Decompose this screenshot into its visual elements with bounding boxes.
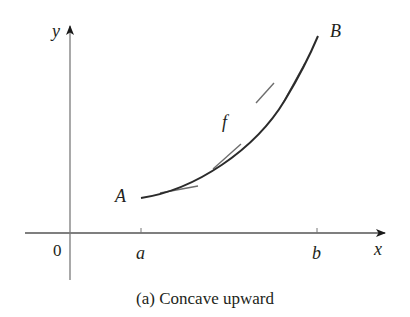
tangent-lower-mid bbox=[213, 144, 241, 169]
figure-caption: (a) Concave upward bbox=[136, 289, 274, 308]
point-b-label: B bbox=[330, 21, 341, 41]
curve-f bbox=[141, 36, 318, 198]
x-axis bbox=[25, 228, 385, 233]
x-axis-label: x bbox=[373, 239, 382, 259]
y-axis-label: y bbox=[50, 21, 60, 41]
origin-label: 0 bbox=[53, 241, 62, 260]
tangent-lines bbox=[160, 63, 305, 193]
concavity-diagram: y x 0 a b A B f (a) Concave upward bbox=[0, 0, 410, 317]
tick-label-a: a bbox=[136, 243, 145, 263]
tangent-upper-mid bbox=[256, 83, 274, 103]
tick-label-b: b bbox=[312, 243, 321, 263]
function-label: f bbox=[222, 112, 230, 132]
point-a-label: A bbox=[114, 186, 127, 206]
